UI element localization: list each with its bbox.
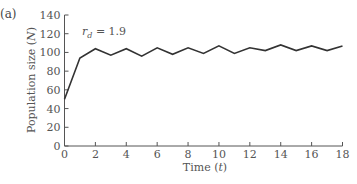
y-tick-label: 80 [47, 65, 61, 78]
x-tick-label: 10 [212, 148, 226, 161]
population-series-line [65, 45, 343, 99]
population-chart: (a) 020406080100120140 024681012141618 P… [0, 0, 357, 184]
y-tick-label: 60 [47, 84, 61, 97]
x-tick-label: 14 [274, 148, 288, 161]
x-tick-label: 8 [185, 148, 192, 161]
x-tick-label: 6 [154, 148, 161, 161]
y-tick-label: 40 [47, 103, 61, 116]
x-tick-label: 0 [61, 148, 68, 161]
x-tick-label: 4 [123, 148, 130, 161]
x-tick-label: 16 [305, 148, 319, 161]
y-tick-label: 120 [40, 28, 61, 41]
y-tick-label: 0 [54, 140, 61, 153]
x-tick-label: 18 [336, 148, 350, 161]
x-tick-label: 2 [92, 148, 99, 161]
x-tick-label: 12 [243, 148, 257, 161]
x-axis-label: Time (t) [183, 161, 227, 174]
y-axis: 020406080100120140 [40, 9, 69, 153]
y-tick-label: 100 [40, 46, 61, 59]
rd-annotation: rd = 1.9 [82, 25, 126, 40]
y-tick-label: 140 [40, 9, 61, 22]
y-tick-label: 20 [47, 121, 61, 134]
x-axis: 024681012141618 [61, 142, 350, 161]
y-axis-label: Population size (N) [25, 27, 38, 133]
panel-label: (a) [0, 7, 17, 21]
